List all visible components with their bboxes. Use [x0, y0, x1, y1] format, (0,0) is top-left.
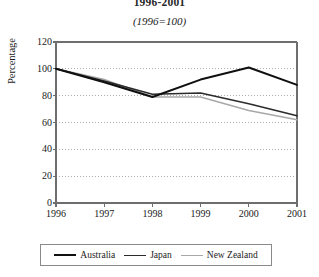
- legend-item[interactable]: Japan: [124, 250, 172, 260]
- plot-area: [0, 0, 319, 277]
- legend-label: Japan: [150, 250, 172, 260]
- legend-line-icon: [54, 254, 76, 256]
- chart-legend: AustraliaJapanNew Zealand: [40, 244, 272, 266]
- legend-line-icon: [124, 255, 146, 256]
- chart-figure: 1996-2001 (1996=100) Percentage 02040608…: [0, 0, 319, 277]
- legend-label: New Zealand: [207, 250, 258, 260]
- legend-label: Australia: [80, 250, 115, 260]
- legend-item[interactable]: New Zealand: [181, 250, 258, 260]
- legend-line-icon: [181, 255, 203, 256]
- legend-item[interactable]: Australia: [54, 250, 115, 260]
